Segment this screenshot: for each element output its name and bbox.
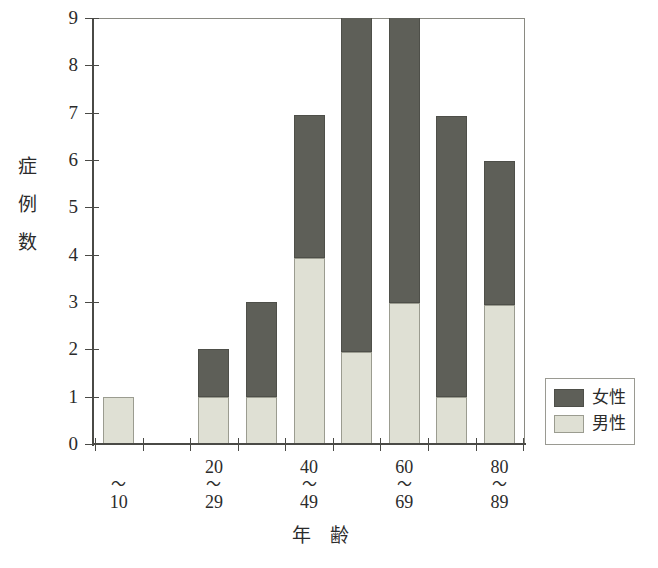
bar-segment-female-60～69 [389,18,420,303]
x-category-lower: 69 [376,492,432,512]
bar-segment-female-80～89 [484,161,515,305]
bar-segment-male-60～69 [389,303,420,444]
bar-segment-female-50～59 [341,18,372,352]
bar-segment-female-70～79 [436,116,467,397]
y-tick-9 [85,18,99,19]
y-tick-2 [85,349,99,350]
x-category-label-40～49: 40～49 [281,457,337,512]
bar-segment-male-80～89 [484,305,515,444]
y-tick-label-2: 2 [48,339,78,358]
legend: 女性 男性 [545,378,635,445]
x-tick-4 [285,438,286,451]
y-tick-label-9: 9 [48,8,78,27]
x-category-upper: 40 [281,457,337,477]
x-category-label-～10: 0～10 [91,457,147,512]
y-tick-label-1: 1 [48,387,78,406]
y-tick-1 [85,397,99,398]
y-tick-label-6: 6 [48,150,78,169]
legend-entry-female: 女性 [554,387,626,409]
bar-segment-male-～10 [103,397,134,444]
x-category-label-20～29: 20～29 [186,457,242,512]
y-axis-title-char-3: 数 [14,224,40,262]
y-tick-4 [85,255,99,256]
x-category-lower: 49 [281,492,337,512]
legend-swatch-female [554,389,584,407]
bar-20～29 [198,349,229,444]
x-category-upper: 80 [471,457,527,477]
x-tick-3 [238,438,239,451]
legend-entry-male: 男性 [554,413,626,435]
x-category-label-80～89: 80～89 [471,457,527,512]
y-axis-title-char-1: 症 [14,148,40,186]
x-category-upper: 60 [376,457,432,477]
y-tick-label-3: 3 [48,292,78,311]
bar-30～39 [246,302,277,444]
x-tick-1 [143,438,144,451]
y-tick-label-4: 4 [48,245,78,264]
bar-segment-female-30～39 [246,302,277,397]
y-tick-label-0: 0 [48,434,78,453]
bar-40～49 [294,115,325,444]
x-category-lower: 29 [186,492,242,512]
x-category-lower: 10 [91,492,147,512]
bar-segment-male-70～79 [436,397,467,444]
bar-segment-male-20～29 [198,397,229,444]
x-tick-6 [380,438,381,451]
x-axis-title: 年 齢 [200,520,440,547]
bar-segment-male-30～39 [246,397,277,444]
bar-50～59 [341,18,372,444]
bar-chart: 0123456789 0～1020～2940～4960～6980～89 症 例 … [0,0,658,568]
bar-segment-male-40～49 [294,258,325,444]
y-tick-6 [85,160,99,161]
y-axis-title: 症 例 数 [14,148,40,262]
x-category-label-60～69: 60～69 [376,457,432,512]
bar-segment-female-40～49 [294,115,325,258]
y-tick-8 [85,65,99,66]
x-tick-5 [333,438,334,451]
y-tick-label-7: 7 [48,103,78,122]
legend-swatch-male [554,415,584,433]
x-tick-2 [190,438,191,451]
legend-label-male: 男性 [592,415,626,433]
bar-segment-female-20～29 [198,349,229,396]
x-category-upper: 20 [186,457,242,477]
bar-～10 [103,397,134,444]
y-axis-line [92,18,94,446]
x-tick-0 [95,438,96,451]
bars-container [92,18,526,444]
y-axis-title-char-2: 例 [14,186,40,224]
y-tick-label-5: 5 [48,197,78,216]
y-tick-7 [85,113,99,114]
x-category-tilde: ～ [376,477,432,492]
x-category-lower: 89 [471,492,527,512]
x-category-tilde: ～ [186,477,242,492]
y-tick-5 [85,207,99,208]
x-category-tilde: ～ [281,477,337,492]
x-tick-8 [476,438,477,451]
x-axis-line [92,443,526,445]
bar-70～79 [436,116,467,444]
y-tick-label-8: 8 [48,55,78,74]
y-tick-0 [85,444,99,445]
bar-60～69 [389,18,420,444]
bar-segment-male-50～59 [341,352,372,444]
y-tick-3 [85,302,99,303]
x-category-tilde: ～ [471,477,527,492]
bar-80～89 [484,161,515,444]
x-tick-7 [428,438,429,451]
x-tick-9 [523,438,524,451]
legend-label-female: 女性 [592,389,626,407]
x-category-tilde: ～ [91,477,147,492]
